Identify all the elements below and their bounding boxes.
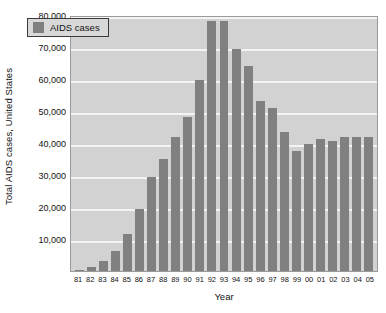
bar-slot — [158, 17, 170, 271]
bar-slot — [254, 17, 266, 271]
bar-slot — [145, 17, 157, 271]
x-axis-tick-label: 83 — [96, 274, 108, 288]
y-axis-title: Total AIDS cases, United States — [0, 0, 18, 272]
x-axis-tick-label: 04 — [352, 274, 364, 288]
x-axis-title: Year — [70, 291, 378, 302]
x-axis-tick-label: 88 — [157, 274, 169, 288]
bar-slot — [315, 17, 327, 271]
bar-92[interactable] — [207, 21, 216, 271]
bar-slot — [218, 17, 230, 271]
bar-94[interactable] — [232, 49, 241, 271]
bar-00[interactable] — [304, 144, 313, 271]
legend-swatch-aids-cases — [33, 22, 44, 33]
y-axis-tick-label: 50,000 — [38, 107, 66, 117]
x-axis-tick-label: 95 — [242, 274, 254, 288]
x-axis-tick-label: 90 — [181, 274, 193, 288]
bar-88[interactable] — [159, 159, 168, 271]
bar-slot — [73, 17, 85, 271]
bar-93[interactable] — [220, 21, 229, 271]
bar-slot — [121, 17, 133, 271]
bar-slot — [133, 17, 145, 271]
bar-slot — [302, 17, 314, 271]
bar-slot — [194, 17, 206, 271]
bar-81[interactable] — [75, 270, 84, 271]
bar-87[interactable] — [147, 177, 156, 271]
bar-slot — [278, 17, 290, 271]
bars-layer — [71, 17, 377, 271]
bar-05[interactable] — [364, 137, 373, 271]
bar-86[interactable] — [135, 209, 144, 271]
bar-83[interactable] — [99, 261, 108, 271]
bar-82[interactable] — [87, 267, 96, 271]
x-axis-tick-label: 91 — [194, 274, 206, 288]
y-axis-tick-label: 20,000 — [38, 203, 66, 213]
bar-89[interactable] — [171, 137, 180, 271]
x-axis-tick-label: 92 — [206, 274, 218, 288]
bar-slot — [182, 17, 194, 271]
bar-slot — [242, 17, 254, 271]
x-axis-tick-label: 84 — [108, 274, 120, 288]
bar-98[interactable] — [280, 132, 289, 271]
bar-slot — [206, 17, 218, 271]
bar-slot — [230, 17, 242, 271]
x-axis-tick-label: 03 — [339, 274, 351, 288]
chart-legend: AIDS cases — [27, 18, 109, 37]
bar-96[interactable] — [256, 101, 265, 271]
y-axis-tick-label: 10,000 — [38, 235, 66, 245]
plot-area — [70, 16, 378, 272]
bar-slot — [290, 17, 302, 271]
bar-85[interactable] — [123, 234, 132, 271]
bar-03[interactable] — [340, 137, 349, 271]
bar-slot — [327, 17, 339, 271]
bar-slot — [170, 17, 182, 271]
bar-slot — [97, 17, 109, 271]
y-axis-tick-label: 40,000 — [38, 139, 66, 149]
bar-04[interactable] — [352, 137, 361, 271]
bar-01[interactable] — [316, 139, 325, 271]
x-axis-tick-label: 94 — [230, 274, 242, 288]
x-axis-tick-label: 86 — [133, 274, 145, 288]
x-axis-tick-label: 89 — [169, 274, 181, 288]
bar-slot — [85, 17, 97, 271]
bar-slot — [109, 17, 121, 271]
x-axis-tick-label: 98 — [279, 274, 291, 288]
x-axis-tick-label: 81 — [72, 274, 84, 288]
bar-slot — [351, 17, 363, 271]
legend-label-aids-cases: AIDS cases — [50, 22, 100, 33]
bar-99[interactable] — [292, 151, 301, 271]
bar-slot — [266, 17, 278, 271]
bar-90[interactable] — [183, 117, 192, 271]
bar-95[interactable] — [244, 66, 253, 271]
x-axis-tick-label: 02 — [327, 274, 339, 288]
x-axis-tick-labels: 8182838485868788899091929394959697989900… — [70, 274, 378, 288]
x-axis-tick-label: 93 — [218, 274, 230, 288]
x-axis-tick-label: 82 — [84, 274, 96, 288]
x-axis-tick-label: 97 — [267, 274, 279, 288]
y-axis-tick-labels: 10,00020,00030,00040,00050,00060,00070,0… — [18, 0, 70, 273]
aids-cases-bar-chart: Total AIDS cases, United States 10,00020… — [0, 0, 386, 313]
x-axis-tick-label: 85 — [121, 274, 133, 288]
x-axis-tick-label: 05 — [364, 274, 376, 288]
y-axis-tick-label: 60,000 — [38, 75, 66, 85]
y-axis-tick-label: 30,000 — [38, 171, 66, 181]
bar-slot — [339, 17, 351, 271]
x-axis-tick-label: 00 — [303, 274, 315, 288]
x-axis-tick-label: 87 — [145, 274, 157, 288]
x-axis-tick-label: 99 — [291, 274, 303, 288]
y-axis-title-text: Total AIDS cases, United States — [4, 67, 15, 204]
y-axis-tick-label: 70,000 — [38, 43, 66, 53]
bar-91[interactable] — [195, 80, 204, 271]
x-axis-tick-label: 96 — [254, 274, 266, 288]
bar-slot — [363, 17, 375, 271]
bar-84[interactable] — [111, 251, 120, 271]
bar-02[interactable] — [328, 141, 337, 271]
bar-97[interactable] — [268, 108, 277, 271]
x-axis-tick-label: 01 — [315, 274, 327, 288]
